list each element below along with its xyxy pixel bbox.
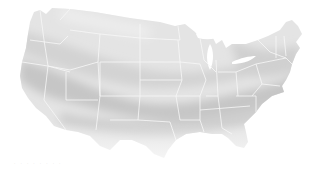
bottom-fade <box>0 0 325 170</box>
map-caption: · · · · · · · · <box>14 162 62 166</box>
us-map <box>0 0 325 170</box>
